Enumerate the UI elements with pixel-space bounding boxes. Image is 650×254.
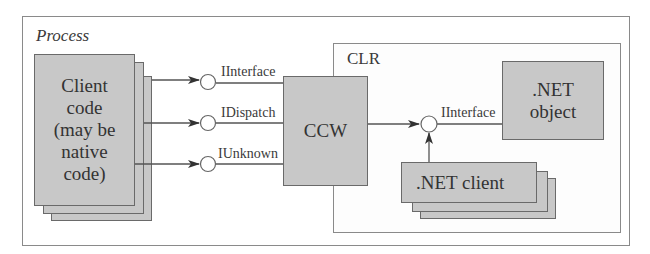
- iunknown-lollipop-icon: [201, 157, 216, 172]
- net-iinterface-label: IInterface: [441, 105, 495, 121]
- connectors-layer: [0, 0, 650, 254]
- idispatch-lollipop-icon: [201, 116, 216, 131]
- iinterface-lollipop-icon: [201, 75, 216, 90]
- net-iinterface-lollipop-icon: [421, 116, 437, 132]
- iunknown-label: IUnknown: [218, 146, 278, 162]
- com-callable-wrapper-diagram: Process Client code (may be native code)…: [0, 0, 650, 254]
- iinterface-label: IInterface: [221, 64, 275, 80]
- idispatch-label: IDispatch: [221, 105, 275, 121]
